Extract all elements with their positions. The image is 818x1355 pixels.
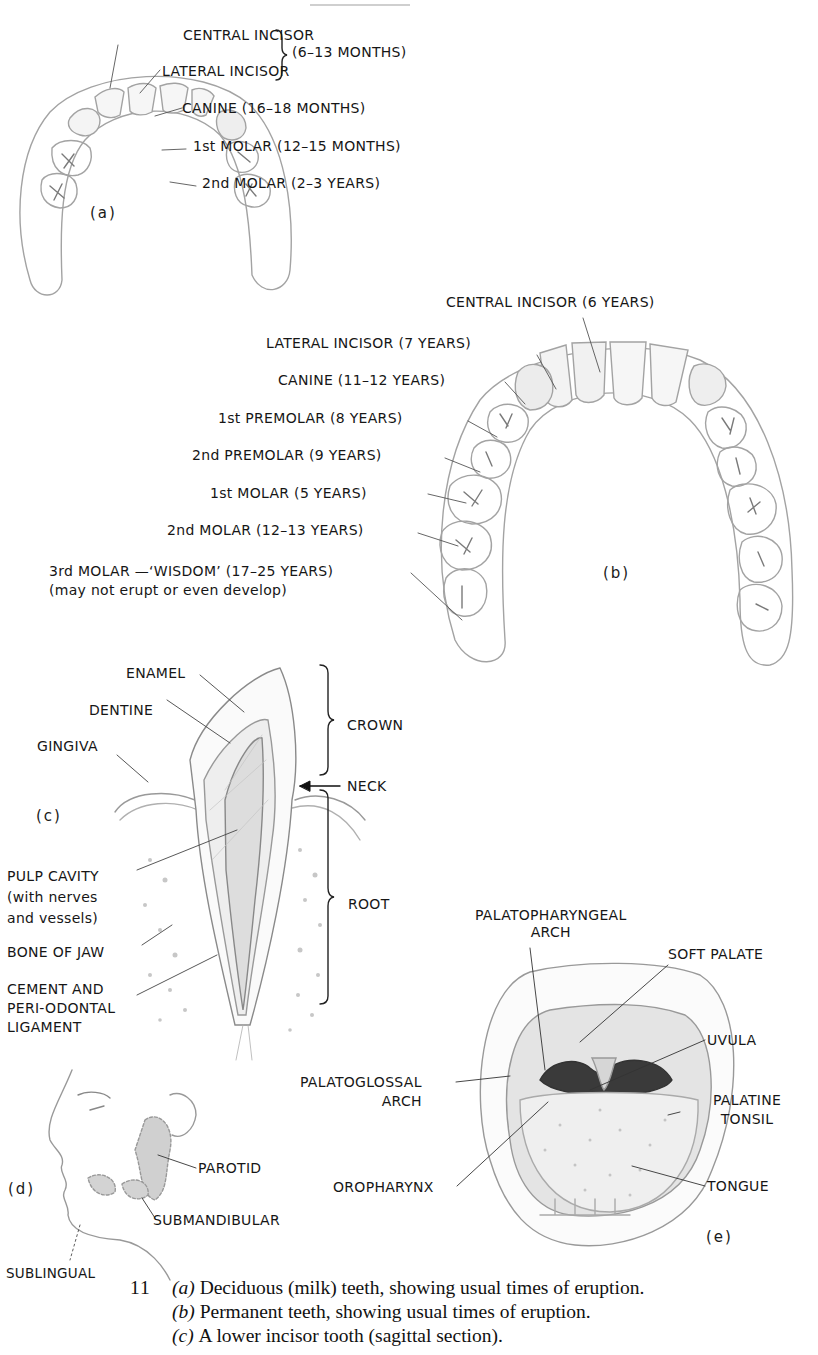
label-b-second-premolar: 2nd PREMOLAR (9 YEARS): [192, 447, 382, 463]
caption-text-c: A lower incisor tooth (sagittal section)…: [199, 1325, 503, 1346]
label-c-dentine: DENTINE: [89, 702, 153, 718]
label-b-canine: CANINE (11–12 YEARS): [278, 372, 445, 388]
label-a-canine: CANINE (16–18 MONTHS): [182, 100, 366, 116]
caption-line-b: (b) Permanent teeth, showing usual times…: [130, 1300, 644, 1324]
label-e-uvula: UVULA: [707, 1032, 756, 1048]
label-c-gingiva: GINGIVA: [37, 738, 98, 754]
permanent-arch-drawing: [411, 318, 793, 665]
label-b-second-molar: 2nd MOLAR (12–13 YEARS): [167, 522, 364, 538]
label-b-first-premolar: 1st PREMOLAR (8 YEARS): [218, 410, 403, 426]
label-a-central-incisor: CENTRAL INCISOR: [183, 27, 314, 43]
caption-line-a: 11(a) Deciduous (milk) teeth, showing us…: [130, 1276, 644, 1300]
face-salivary-drawing: [49, 1070, 196, 1280]
label-c-cement-ligament: CEMENT AND PERI-ODONTAL LIGAMENT: [7, 980, 115, 1037]
label-c-crown: CROWN: [347, 717, 403, 733]
label-c-root: ROOT: [348, 896, 390, 912]
label-b-third-molar-note: (may not erupt or even develop): [49, 582, 287, 598]
label-c-neck: NECK: [347, 778, 386, 794]
caption-figure-number: 11: [130, 1276, 172, 1300]
label-a-lateral-incisor: LATERAL INCISOR: [162, 63, 290, 79]
label-d-sublingual: SUBLINGUAL: [6, 1266, 95, 1282]
label-e-palatopharyngeal-arch: PALATOPHARYNGEAL ARCH: [475, 907, 627, 941]
panel-tag-a: (a): [90, 204, 117, 222]
label-a-incisors-eruption-time: (6–13 MONTHS): [292, 44, 407, 60]
label-b-central-incisor: CENTRAL INCISOR (6 YEARS): [446, 294, 655, 310]
caption-tag-b: (b): [172, 1301, 195, 1322]
label-c-enamel: ENAMEL: [126, 665, 185, 681]
caption-text-a: Deciduous (milk) teeth, showing usual ti…: [200, 1277, 645, 1298]
label-b-third-molar: 3rd MOLAR —‘WISDOM’ (17–25 YEARS): [49, 563, 333, 579]
open-mouth-drawing: [456, 948, 734, 1246]
panel-tag-e: (e): [706, 1228, 733, 1246]
label-e-palatine-tonsil: PALATINE TONSIL: [713, 1091, 781, 1129]
label-b-lateral-incisor: LATERAL INCISOR (7 YEARS): [266, 335, 471, 351]
panel-tag-c: (c): [36, 807, 62, 825]
figure-caption: 11(a) Deciduous (milk) teeth, showing us…: [130, 1276, 644, 1348]
label-e-soft-palate: SOFT PALATE: [668, 946, 763, 962]
label-e-tongue: TONGUE: [707, 1178, 769, 1194]
caption-tag-c: (c): [172, 1325, 194, 1346]
panel-tag-d: (d): [8, 1180, 35, 1198]
label-d-parotid: PAROTID: [198, 1160, 261, 1176]
illustration-canvas: [0, 0, 818, 1355]
caption-line-c: (c) A lower incisor tooth (sagittal sect…: [130, 1324, 644, 1348]
label-d-submandibular: SUBMANDIBULAR: [153, 1212, 280, 1228]
label-e-palatoglossal-arch: PALATOGLOSSAL ARCH: [300, 1073, 422, 1111]
label-a-first-molar: 1st MOLAR (12–15 MONTHS): [193, 138, 401, 154]
label-e-oropharynx: OROPHARYNX: [333, 1179, 434, 1195]
caption-text-b: Permanent teeth, showing usual times of …: [200, 1301, 591, 1322]
label-b-first-molar: 1st MOLAR (5 YEARS): [210, 485, 367, 501]
panel-tag-b: (b): [603, 564, 630, 582]
incisor-section-drawing: [115, 665, 365, 1060]
label-c-bone-of-jaw: BONE OF JAW: [7, 944, 105, 960]
caption-tag-a: (a): [172, 1277, 195, 1298]
label-c-pulp-cavity: PULP CAVITY (with nerves and vessels): [7, 866, 99, 929]
label-a-second-molar: 2nd MOLAR (2–3 YEARS): [202, 175, 380, 191]
